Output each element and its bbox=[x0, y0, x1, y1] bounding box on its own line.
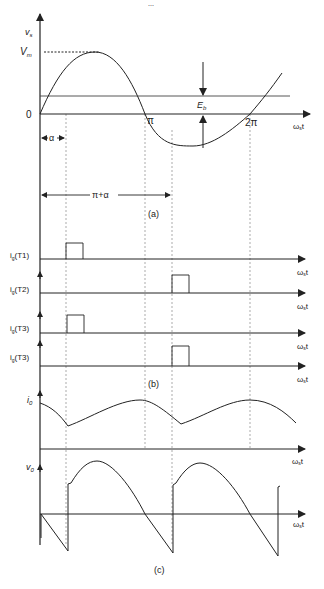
alpha-label: α bbox=[49, 133, 54, 143]
page-header: ... bbox=[148, 0, 154, 7]
vs-sine-wave bbox=[40, 52, 282, 146]
gate-pulse-t3 bbox=[67, 315, 84, 333]
dashed-guides bbox=[66, 114, 250, 545]
io-label: i0 bbox=[27, 395, 33, 406]
ig-t3-label: ig(T3) bbox=[10, 324, 30, 334]
wst-label-vo: ωst bbox=[293, 520, 305, 529]
ig-t1-label: ig(T1) bbox=[10, 251, 30, 261]
vs-label: vs bbox=[25, 27, 33, 38]
caption-a: (a) bbox=[148, 209, 159, 219]
wst-label-t3: ωst bbox=[297, 342, 309, 351]
panel-a: vs Vm 0 π 2π Eb ωst α π+α (a) bbox=[20, 27, 310, 219]
vm-label: Vm bbox=[20, 46, 32, 58]
two-pi-label: 2π bbox=[245, 117, 258, 128]
ig-t2-label: ig(T2) bbox=[10, 285, 30, 295]
ig-t3b-label: ig(T3) bbox=[10, 353, 30, 363]
panel-c bbox=[40, 391, 305, 556]
gate-pulse-t2 bbox=[172, 275, 189, 293]
origin-label: 0 bbox=[26, 109, 32, 120]
caption-b: (b) bbox=[148, 379, 159, 389]
wst-label-t3b: ωst bbox=[297, 375, 309, 384]
gate-pulse-t1 bbox=[66, 243, 83, 259]
pi-alpha-label: π+α bbox=[92, 190, 109, 200]
panel-b-labels: ig(T1) ωst ig(T2) ωst ig(T3) ωst ig(T3) … bbox=[10, 251, 309, 389]
pi-label: π bbox=[147, 115, 154, 126]
eb-label: Eb bbox=[197, 100, 207, 111]
converter-waveform-diagram: ... vs Vm 0 π 2π Eb ωst α π+α (a) bbox=[0, 0, 324, 589]
x-axis-label-a: ωst bbox=[293, 122, 305, 131]
wst-label-io: ωst bbox=[292, 457, 304, 466]
io-waveform bbox=[40, 400, 296, 426]
gate-pulse-t3b bbox=[172, 346, 189, 366]
vo-label: v0 bbox=[26, 462, 35, 473]
wst-label-t2: ωst bbox=[297, 302, 309, 311]
panel-b bbox=[40, 243, 305, 366]
caption-c: (c) bbox=[154, 565, 165, 575]
wst-label-t1: ωst bbox=[297, 268, 309, 277]
vo-waveform bbox=[41, 461, 280, 556]
